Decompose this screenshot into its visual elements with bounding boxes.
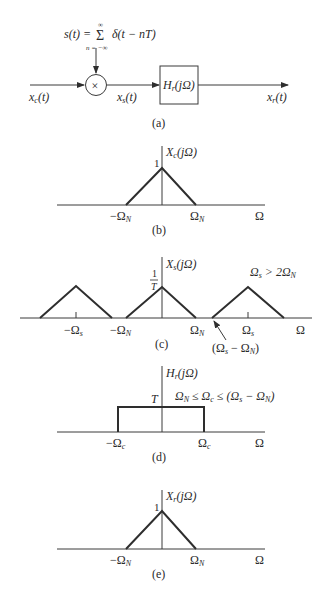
caption-d: (d) [152, 450, 166, 464]
y-axis-label: Xc(jΩ) [165, 145, 197, 160]
tick-neg-omega-n: −ΩN [110, 553, 132, 568]
caption-b: (b) [152, 223, 166, 237]
peak-label: 1 [154, 157, 160, 169]
gain-label: T [151, 392, 159, 406]
triangle-spectrum [126, 168, 196, 205]
sampling-lhs: s(t) = [64, 27, 91, 41]
x-axis-label: Ω [255, 209, 264, 223]
caption-a: (a) [152, 116, 165, 130]
tick-pos-omega-n: ΩN [190, 323, 205, 338]
annotation-omega-s-minus-omega-n: (Ωs − ΩN) [212, 341, 259, 356]
sampling-signal-expression: s(t) = Σ ∞ n = −∞ δ(t − nT) [64, 21, 156, 52]
input-label: xc(t) [28, 90, 49, 105]
triangle-spectrum [126, 511, 196, 549]
output-label: xr(t) [266, 90, 287, 105]
sampling-condition: Ωs > 2ΩN [250, 265, 297, 280]
y-axis-label: Hr(jΩ) [165, 366, 198, 381]
tick-pos-omega-n: ΩN [190, 553, 205, 568]
sampling-reconstruction-figure: s(t) = Σ ∞ n = −∞ δ(t − nT) xc(t) × xs(t… [0, 0, 320, 595]
panel-d-filter-response: Hr(jΩ) T ΩN ≤ Ωc ≤ (Ωs − ΩN) −Ωc Ωc Ω (d… [57, 366, 274, 464]
tick-pos-omega-s: Ωs [242, 323, 254, 338]
tick-neg-omega-s: −Ωs [64, 323, 83, 338]
y-axis-label: Xs(jΩ) [165, 257, 196, 272]
panel-a-block-diagram: s(t) = Σ ∞ n = −∞ δ(t − nT) xc(t) × xs(t… [28, 21, 288, 130]
annotation-arrow [214, 321, 226, 340]
x-axis-label: Ω [255, 553, 264, 567]
caption-c: (c) [155, 337, 168, 351]
sum-lower-limit: n = −∞ [86, 44, 107, 52]
cutoff-condition: ΩN ≤ Ωc ≤ (Ωs − ΩN) [175, 389, 274, 404]
panel-b-input-spectrum: Xc(jΩ) 1 −ΩN ΩN Ω (b) [57, 145, 265, 237]
ideal-lowpass-rect [118, 407, 204, 432]
fraction-numerator: 1 [152, 268, 157, 279]
replica-center [126, 287, 196, 318]
tick-pos-omega-c: Ωc [198, 436, 211, 451]
sampled-signal-label: xs(t) [116, 90, 137, 105]
filter-label: Hr(jΩ) [162, 78, 195, 93]
x-axis-label: Ω [296, 323, 305, 337]
tick-neg-omega-n: −ΩN [110, 209, 132, 224]
peak-label: 1 [154, 501, 160, 513]
tick-neg-omega-n: −ΩN [110, 323, 132, 338]
x-axis-label: Ω [255, 436, 264, 450]
tick-pos-omega-n: ΩN [190, 209, 205, 224]
panel-e-reconstructed-spectrum: Xr(jΩ) 1 −ΩN ΩN Ω (e) [57, 489, 265, 581]
panel-c-sampled-spectrum: Xs(jΩ) 1 T Ωs > 2ΩN −Ωs −ΩN ΩN Ωs Ω (Ωs … [20, 257, 312, 356]
peak-label-fraction: 1 T [150, 268, 158, 292]
caption-e: (e) [152, 567, 165, 581]
tick-neg-omega-c: −Ωc [106, 436, 126, 451]
sum-term: δ(t − nT) [112, 27, 156, 41]
multiply-icon: × [92, 79, 99, 93]
sum-upper-limit: ∞ [98, 21, 103, 29]
y-axis-label: Xr(jΩ) [165, 489, 196, 504]
sum-symbol: Σ [96, 28, 104, 43]
